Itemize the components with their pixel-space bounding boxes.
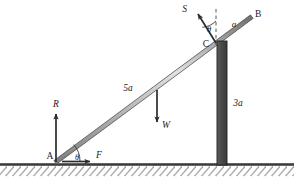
force-label-F: F — [95, 150, 102, 160]
support-pillar — [217, 41, 227, 165]
ground-line — [0, 163, 294, 166]
dimension-label-5a: 5a — [123, 83, 133, 93]
ground-hatching — [0, 166, 294, 177]
point-label-A: A — [47, 151, 54, 161]
force-label-R: R — [52, 99, 59, 109]
physics-free-body-diagram: A B C R F W S θ θ 5a a 3a — [0, 0, 294, 180]
angle-label-theta-a: θ — [75, 152, 79, 162]
diagram-canvas: A B C R F W S θ θ 5a a 3a — [0, 0, 294, 180]
point-label-C: C — [203, 39, 209, 49]
force-label-W: W — [162, 120, 171, 130]
dimension-label-a: a — [232, 19, 237, 29]
angle-label-theta-c: θ — [207, 24, 211, 34]
force-label-S: S — [182, 4, 187, 14]
point-label-B: B — [255, 9, 261, 19]
dimension-label-3a: 3a — [232, 98, 243, 108]
